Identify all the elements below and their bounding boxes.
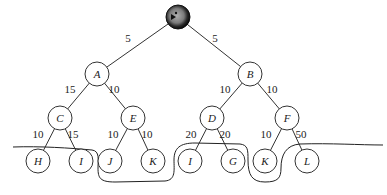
node-label: A bbox=[93, 68, 101, 80]
node-label: L bbox=[303, 155, 310, 167]
tree-node-j: J bbox=[98, 149, 122, 173]
tree-nodes: ABCEDFHIJKIGKL bbox=[26, 62, 319, 173]
edge-weight-label: 15 bbox=[65, 83, 77, 95]
tree-node-i1: I bbox=[69, 149, 93, 173]
edge-weight-label: 15 bbox=[68, 128, 80, 140]
node-label: K bbox=[148, 155, 157, 167]
node-label: C bbox=[56, 112, 64, 124]
edge-weight-labels: 55151010101015101020201050 bbox=[33, 32, 308, 140]
root-node bbox=[166, 5, 190, 29]
edge-weight-label: 10 bbox=[33, 128, 45, 140]
node-label: D bbox=[207, 112, 216, 124]
edge-weight-label: 20 bbox=[220, 128, 232, 140]
edge-s-a bbox=[97, 17, 178, 74]
pacman-icon bbox=[166, 5, 190, 29]
edge-weight-label: 10 bbox=[142, 128, 154, 140]
node-label: B bbox=[247, 68, 254, 80]
tree-node-k1: K bbox=[141, 149, 165, 173]
search-tree-diagram: 55151010101015101020201050 ABCEDFHIJKIGK… bbox=[0, 0, 387, 195]
edge-weight-label: 5 bbox=[212, 32, 218, 44]
edge-s-b bbox=[178, 17, 250, 74]
node-label: F bbox=[283, 112, 291, 124]
edge-weight-label: 50 bbox=[296, 128, 308, 140]
tree-node-b: B bbox=[238, 62, 262, 86]
tree-node-g: G bbox=[221, 149, 245, 173]
node-label: K bbox=[260, 155, 269, 167]
node-label: E bbox=[129, 112, 137, 124]
tree-node-c: C bbox=[48, 106, 72, 130]
tree-node-k2: K bbox=[253, 149, 277, 173]
tree-node-e: E bbox=[121, 106, 145, 130]
tree-node-l: L bbox=[295, 149, 319, 173]
tree-node-h: H bbox=[26, 149, 50, 173]
tree-node-d: D bbox=[200, 106, 224, 130]
node-label: G bbox=[229, 155, 237, 167]
edge-weight-label: 10 bbox=[220, 83, 232, 95]
node-label: H bbox=[33, 155, 43, 167]
edge-weight-label: 10 bbox=[267, 83, 279, 95]
tree-node-f: F bbox=[275, 106, 299, 130]
edge-weight-label: 10 bbox=[109, 83, 121, 95]
tree-node-i2: I bbox=[178, 149, 202, 173]
edge-weight-label: 20 bbox=[186, 128, 198, 140]
edge-weight-label: 10 bbox=[261, 128, 273, 140]
edge-weight-label: 10 bbox=[108, 128, 120, 140]
edge-weight-label: 5 bbox=[125, 32, 131, 44]
tree-node-a: A bbox=[85, 62, 109, 86]
pacman-eye-icon bbox=[175, 12, 177, 14]
